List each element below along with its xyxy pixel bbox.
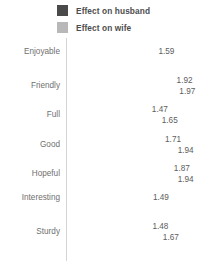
legend-swatch-husband <box>57 5 68 16</box>
category-label: Friendly <box>0 81 60 90</box>
bar-value-label: 1.59 <box>154 47 174 56</box>
chart-legend: Effect on husband Effect on wife <box>57 3 203 37</box>
bar-value-label: 1.48 <box>148 222 168 231</box>
category-label: Full <box>0 110 60 119</box>
bar-husband[interactable]: 1.49 <box>67 192 149 202</box>
bar-value-label: 1.87 <box>170 163 190 172</box>
bar-value-label: 1.92 <box>173 76 193 85</box>
bar-wife[interactable]: 1.94 <box>67 174 174 184</box>
bar-husband[interactable]: 1.71 <box>67 134 161 144</box>
category-label: Enjoyable <box>0 47 60 56</box>
category-label: Interesting <box>0 193 60 202</box>
bar-husband[interactable]: 1.92 <box>67 75 173 85</box>
bar-value-label: 1.94 <box>174 174 194 183</box>
bar-value-label: 1.71 <box>161 134 181 143</box>
bar-value-label: 1.47 <box>148 105 168 114</box>
plot-area: Enjoyable1.59Friendly1.921.97Full1.471.6… <box>0 38 205 263</box>
bar-value-label: 1.67 <box>159 233 179 242</box>
legend-item-wife[interactable]: Effect on wife <box>57 20 203 35</box>
bar-value-label: 1.94 <box>174 145 194 154</box>
legend-item-husband[interactable]: Effect on husband <box>57 3 203 18</box>
legend-label-wife: Effect on wife <box>76 23 131 33</box>
bar-wife[interactable]: 1.59 <box>67 46 154 56</box>
bar-chart: Effect on husband Effect on wife Enjoyab… <box>0 0 205 267</box>
bar-wife[interactable]: 1.65 <box>67 115 158 125</box>
category-label: Sturdy <box>0 227 60 236</box>
bar-value-label: 1.49 <box>149 193 169 202</box>
bar-husband[interactable]: 1.47 <box>67 104 148 114</box>
bar-value-label: 1.65 <box>158 116 178 125</box>
bar-wife[interactable]: 1.67 <box>67 232 159 242</box>
category-label: Hopeful <box>0 169 60 178</box>
bar-husband[interactable]: 1.87 <box>67 163 170 173</box>
bar-value-label: 1.97 <box>175 87 195 96</box>
bar-wife[interactable]: 1.97 <box>67 86 175 96</box>
legend-swatch-wife <box>57 22 68 33</box>
bar-husband[interactable]: 1.48 <box>67 221 148 231</box>
legend-label-husband: Effect on husband <box>76 6 150 16</box>
category-label: Good <box>0 140 60 149</box>
bar-wife[interactable]: 1.94 <box>67 145 174 155</box>
